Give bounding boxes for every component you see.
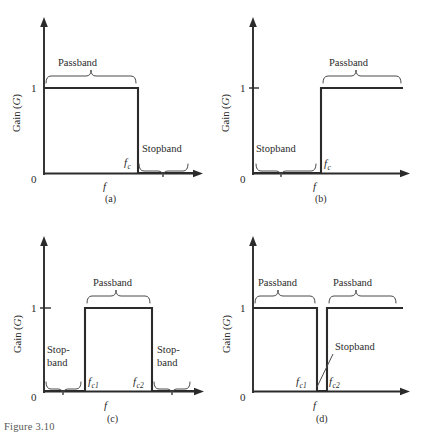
y-tick-one: 1	[240, 82, 246, 94]
panel-b-highpass: Gain (G) 1 0 f Stopband Passband fc (b)	[211, 0, 423, 215]
stopband-brace	[139, 164, 188, 177]
x-axis-label: f	[313, 180, 318, 192]
svg-text:Gain (G): Gain (G)	[10, 94, 23, 133]
stopband-label: Stopband	[335, 341, 375, 352]
passband-label: Passband	[329, 57, 369, 68]
response-curve-highpass	[253, 88, 403, 173]
passband-label: Passband	[93, 277, 133, 288]
panel-label-d: (d)	[316, 413, 328, 425]
x-axis	[253, 388, 410, 396]
figure-caption: Figure 3.10	[4, 421, 55, 432]
y-axis-label-text: Gain (	[221, 326, 233, 353]
y-axis-label-italic: G	[10, 97, 22, 105]
x-axis-label: f	[104, 399, 109, 411]
y-axis-label: Gain (G)	[219, 94, 232, 133]
stopband-left-label-line1: Stop-	[47, 344, 70, 355]
y-tick-one: 1	[31, 82, 37, 94]
y-tick-one: 1	[31, 302, 37, 314]
cutoff-label-fc: fc	[324, 157, 332, 172]
response-curve-lowpass	[44, 88, 196, 173]
cutoff-label-fc2: fc2	[133, 375, 144, 390]
panel-a-lowpass: Gain (G) 1 0 f Passband Stopband fc	[0, 0, 212, 215]
y-axis	[40, 236, 48, 393]
panel-c-bandpass: Gain (G) 1 0 f Passband Stop- band Stop-…	[0, 215, 212, 430]
y-axis	[40, 17, 48, 175]
stopband-right-label-line2: band	[157, 357, 178, 368]
y-axis-label-italic: G	[11, 318, 23, 326]
y-axis-label-text: Gain (	[11, 105, 23, 132]
stopband-left-label-line2: band	[47, 357, 68, 368]
y-tick-one: 1	[240, 302, 246, 314]
y-tick-zero: 0	[240, 173, 246, 185]
passband-brace	[87, 290, 150, 303]
cutoff-label-fc1: fc1	[88, 375, 99, 390]
y-axis-label-close: )	[11, 94, 23, 98]
y-axis-label: Gain (G)	[220, 315, 233, 354]
cutoff-label-fc1: fc1	[296, 375, 307, 390]
figure-3-10: Gain (G) 1 0 f Passband Stopband fc	[0, 0, 425, 434]
panel-label-a: (a)	[105, 193, 116, 205]
stopband-right-label-line1: Stop-	[157, 344, 180, 355]
y-tick-zero: 0	[240, 391, 246, 403]
svg-text:Gain (G): Gain (G)	[220, 315, 233, 354]
stopband-left-brace	[46, 382, 81, 395]
passband-right-brace	[329, 290, 396, 303]
y-axis-label-close: )	[220, 94, 232, 98]
panel-label-b: (b)	[315, 193, 327, 205]
passband-left-label: Passband	[258, 277, 298, 288]
y-axis-label-close: )	[12, 315, 24, 319]
cutoff-label-fc: fc	[124, 156, 132, 171]
y-tick-zero: 0	[31, 173, 37, 185]
y-tick-zero: 0	[31, 391, 37, 403]
passband-right-label: Passband	[333, 277, 373, 288]
svg-text:Gain (G): Gain (G)	[219, 94, 232, 133]
x-axis-label: f	[313, 399, 318, 411]
svg-text:Gain (G): Gain (G)	[11, 315, 24, 354]
y-axis-label-italic: G	[220, 318, 232, 326]
stopband-right-brace	[154, 382, 190, 395]
stopband-label: Stopband	[142, 143, 182, 154]
panel-label-c: (c)	[107, 413, 118, 425]
panel-d-bandstop: Gain (G) 1 0 f Passband Passband Stopban…	[211, 215, 423, 430]
stopband-brace	[256, 164, 316, 177]
cutoff-label-fc2: fc2	[329, 375, 340, 390]
passband-brace	[46, 70, 136, 83]
y-axis-label-text: Gain (	[220, 105, 232, 132]
y-axis	[249, 236, 257, 393]
y-axis-label-italic: G	[219, 97, 231, 105]
passband-left-brace	[255, 290, 315, 303]
stopband-label: Stopband	[256, 143, 296, 154]
y-axis-label: Gain (G)	[10, 94, 23, 133]
passband-label: Passband	[58, 57, 98, 68]
passband-brace	[323, 70, 401, 83]
response-curve-bandstop	[253, 308, 403, 391]
y-axis-label: Gain (G)	[11, 315, 24, 354]
y-axis-label-close: )	[221, 315, 233, 319]
y-axis-label-text: Gain (	[12, 326, 24, 353]
x-axis-label: f	[103, 180, 108, 192]
